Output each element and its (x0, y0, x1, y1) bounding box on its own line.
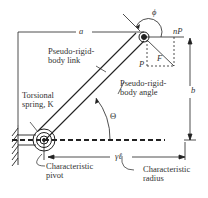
label-b: b (191, 86, 195, 95)
label-nP: nP (173, 27, 182, 36)
label-pivot-2: pivot (46, 171, 63, 180)
label-angle-2: body angle (120, 88, 158, 97)
label-P: P (139, 60, 144, 69)
label-F: F (157, 54, 162, 63)
label-radius-2: radius (143, 174, 164, 183)
label-spring-2: spring, K (22, 100, 54, 109)
label-theta: Θ (110, 112, 116, 121)
label-a: a (79, 27, 83, 36)
label-link-2: body link (48, 56, 80, 65)
fixed-wall (12, 125, 18, 166)
label-phi: ϕ (152, 8, 156, 17)
label-gamma-l: γℓ (115, 152, 122, 161)
